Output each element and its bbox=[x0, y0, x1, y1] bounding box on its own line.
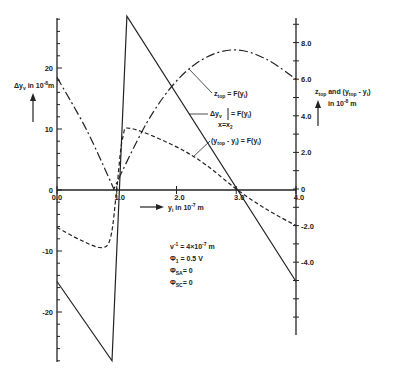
right-axis-label: ztop and (ytop - yi) in 10-8 m bbox=[315, 88, 370, 126]
legend-ytop: (ytop - yi) = F(yi) bbox=[211, 137, 261, 146]
x-axis-label: yi in 10-7 m bbox=[140, 202, 204, 213]
svg-text:ν-1 = 4×10-7 m: ν-1 = 4×10-7 m bbox=[170, 241, 215, 250]
right-tick-label: 6.0 bbox=[301, 75, 311, 84]
svg-text:Φ1 = 0.5 V: Φ1 = 0.5 V bbox=[170, 255, 203, 264]
x-tick-label: 4.0 bbox=[294, 193, 304, 202]
svg-text:x=x2: x=x2 bbox=[218, 121, 233, 130]
svg-text:in 10-8 m: in 10-8 m bbox=[328, 98, 357, 107]
parameters: ν-1 = 4×10-7 m Φ1 = 0.5 V ΦSA= 0 ΦSC= 0 bbox=[170, 241, 215, 288]
left-tick-label: -20 bbox=[42, 308, 53, 317]
legend-dyv: Δyv = F(yi) x=x2 bbox=[210, 108, 251, 130]
svg-text:ΦSC= 0: ΦSC= 0 bbox=[170, 279, 193, 288]
arrow-head-icon bbox=[30, 93, 36, 101]
left-tick-label: -10 bbox=[42, 247, 53, 256]
left-axis-label: Δyv in 10-8m bbox=[14, 80, 54, 122]
svg-text:ΦSA= 0: ΦSA= 0 bbox=[170, 267, 193, 276]
chart-plot: 20100-10-208.06.04.02.00-2.0-4.00.01.02.… bbox=[0, 0, 393, 375]
svg-text:yi in 10-7 m: yi in 10-7 m bbox=[168, 202, 204, 213]
left-tick-label: 20 bbox=[45, 64, 53, 73]
svg-text:ztop and (ytop - yi): ztop and (ytop - yi) bbox=[315, 88, 370, 97]
svg-text:(ytop - yi) = F(yi): (ytop - yi) = F(yi) bbox=[211, 137, 261, 146]
svg-text:= F(yi): = F(yi) bbox=[231, 110, 251, 119]
left-tick-label: 10 bbox=[45, 125, 53, 134]
x-tick-label: 2.0 bbox=[174, 193, 184, 202]
x-tick-label: 0.0 bbox=[52, 193, 62, 202]
right-tick-label: -2.0 bbox=[301, 222, 314, 231]
legend-ztop: ztop = F(yi) bbox=[214, 90, 248, 99]
right-tick-label: 4.0 bbox=[301, 112, 311, 121]
svg-text:Δyv in 10-8m: Δyv in 10-8m bbox=[14, 80, 54, 91]
arrow-head-icon bbox=[156, 204, 164, 210]
arrow-head-icon bbox=[315, 100, 321, 108]
right-tick-label: 2.0 bbox=[301, 148, 311, 157]
svg-text:Δyv: Δyv bbox=[210, 110, 222, 119]
series-line-1 bbox=[57, 50, 296, 189]
svg-text:ztop = F(yi): ztop = F(yi) bbox=[214, 90, 248, 99]
axes: 20100-10-208.06.04.02.00-2.0-4.00.01.02.… bbox=[42, 18, 314, 362]
right-tick-label: 8.0 bbox=[301, 39, 311, 48]
right-tick-label: -4.0 bbox=[301, 258, 314, 267]
